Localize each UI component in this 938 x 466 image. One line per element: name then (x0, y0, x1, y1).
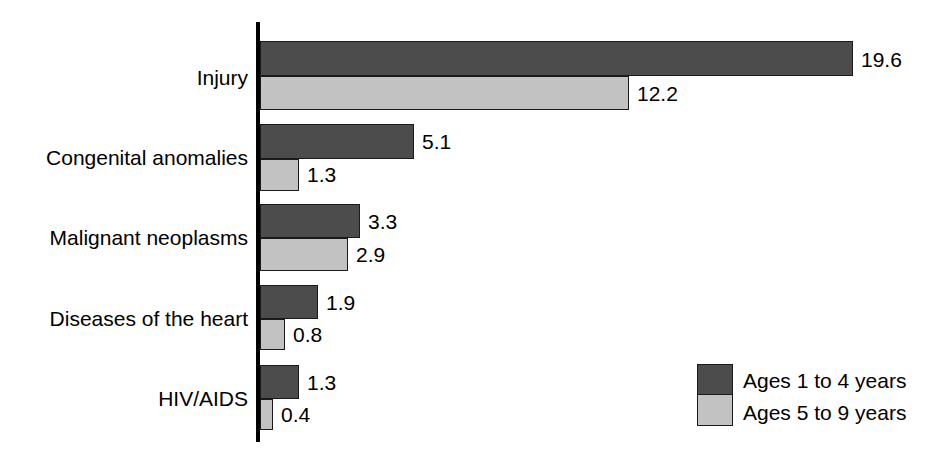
bar-value-malignant-neoplasms-ages-1-to-4: 3.3 (368, 211, 397, 232)
bar-malignant-neoplasms-ages-1-to-4 (260, 204, 360, 238)
category-label-congenital-anomalies: Congenital anomalies (46, 147, 248, 168)
bar-value-hiv-aids-ages-5-to-9: 0.4 (281, 404, 310, 425)
bar-value-diseases-of-the-heart-ages-1-to-4: 1.9 (326, 292, 355, 313)
category-label-injury: Injury (197, 67, 248, 88)
bar-value-diseases-of-the-heart-ages-5-to-9: 0.8 (293, 324, 322, 345)
legend-swatch-ages-1-to-4 (698, 365, 732, 395)
bar-value-hiv-aids-ages-1-to-4: 1.3 (307, 372, 336, 393)
bar-diseases-of-the-heart-ages-1-to-4 (260, 285, 318, 319)
bar-hiv-aids-ages-1-to-4 (260, 365, 299, 399)
category-label-malignant-neoplasms: Malignant neoplasms (50, 227, 248, 248)
bar-diseases-of-the-heart-ages-5-to-9 (260, 319, 285, 350)
bar-value-injury-ages-1-to-4: 19.6 (861, 49, 902, 70)
bar-congenital-anomalies-ages-1-to-4 (260, 124, 414, 159)
bar-chart: Injury 19.6 12.2 Congenital anomalies 5.… (0, 0, 938, 466)
legend-label-ages-5-to-9: Ages 5 to 9 years (743, 402, 906, 423)
bar-injury-ages-1-to-4 (260, 41, 853, 76)
category-label-hiv-aids: HIV/AIDS (158, 388, 248, 409)
bar-injury-ages-5-to-9 (260, 76, 629, 110)
bar-malignant-neoplasms-ages-5-to-9 (260, 238, 348, 271)
plot-area: Injury 19.6 12.2 Congenital anomalies 5.… (0, 0, 938, 466)
category-label-diseases-of-the-heart: Diseases of the heart (50, 308, 248, 329)
bar-value-injury-ages-5-to-9: 12.2 (637, 83, 678, 104)
bar-value-congenital-anomalies-ages-1-to-4: 5.1 (422, 131, 451, 152)
bar-congenital-anomalies-ages-5-to-9 (260, 159, 299, 191)
legend-swatch-ages-5-to-9 (698, 395, 732, 425)
legend-swatch-group (697, 364, 733, 426)
bar-value-congenital-anomalies-ages-5-to-9: 1.3 (307, 164, 336, 185)
bar-hiv-aids-ages-5-to-9 (260, 399, 273, 430)
legend-label-ages-1-to-4: Ages 1 to 4 years (743, 370, 906, 391)
bar-value-malignant-neoplasms-ages-5-to-9: 2.9 (356, 244, 385, 265)
